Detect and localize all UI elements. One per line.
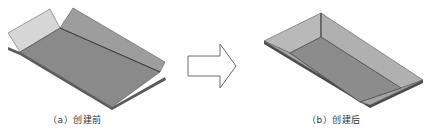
arrow-right-icon [186, 42, 238, 90]
panel-after: （b）创建后 [255, 0, 434, 133]
tray-after-illustration [255, 0, 434, 112]
caption-before: （a）创建前 [48, 113, 102, 126]
panel-before: （a）创建前 [0, 0, 180, 133]
caption-after: （b）创建后 [307, 113, 361, 126]
sheet-before-illustration [0, 0, 180, 112]
